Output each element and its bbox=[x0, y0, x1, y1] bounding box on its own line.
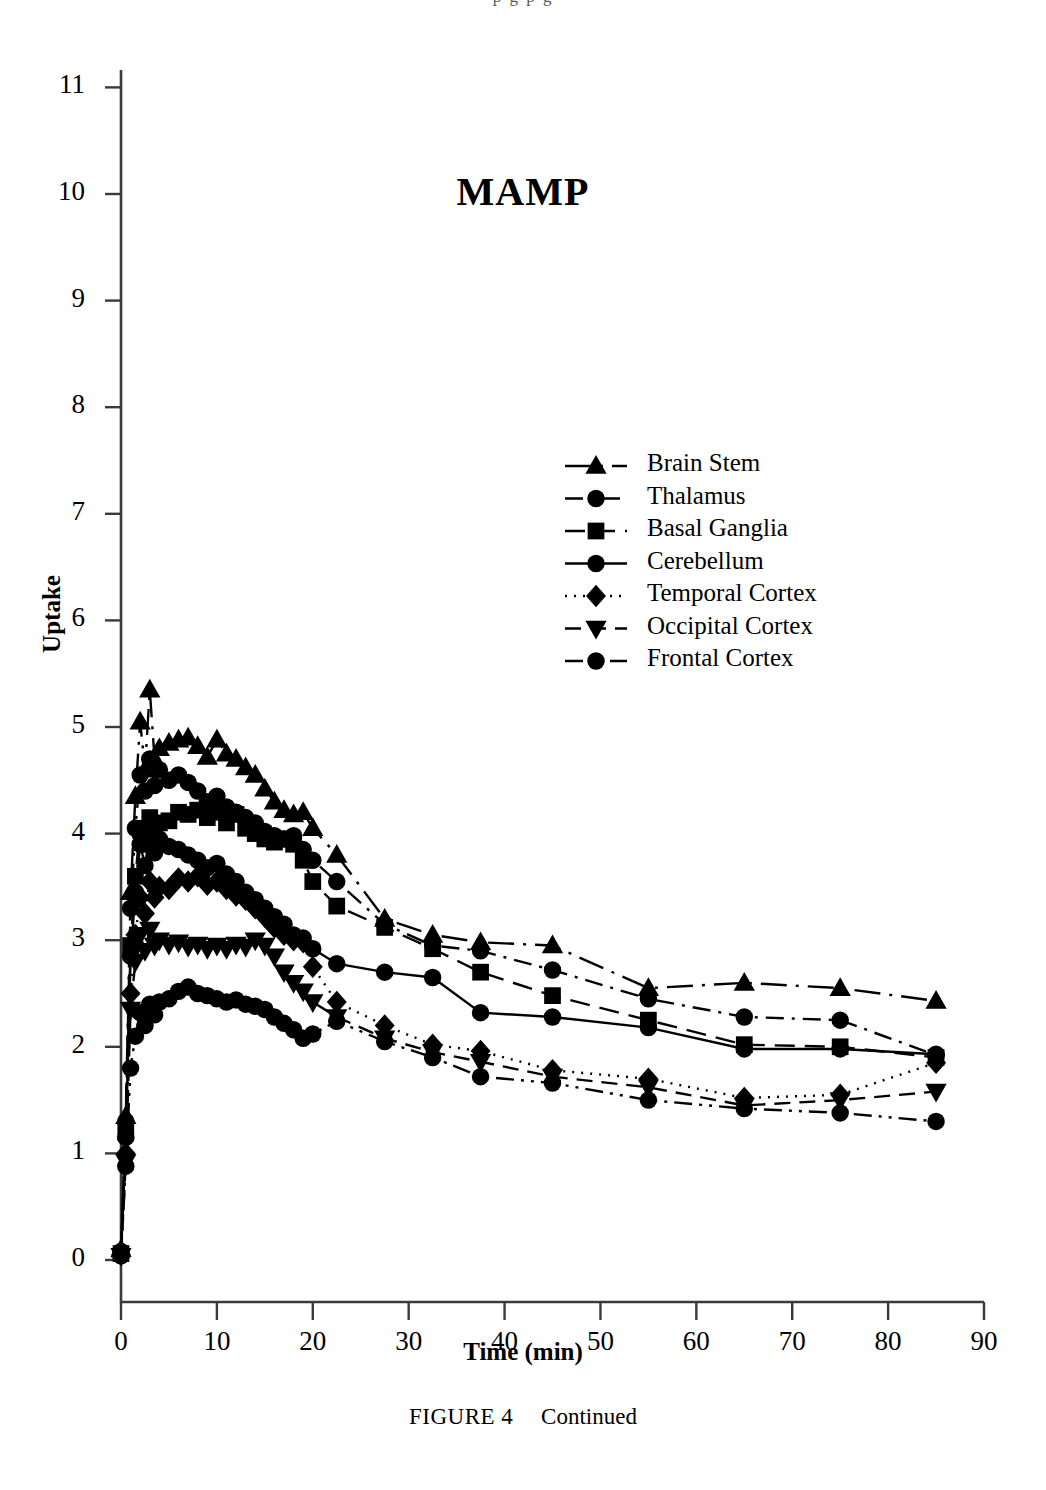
legend-entry bbox=[565, 621, 627, 640]
y-tick-label: 10 bbox=[25, 176, 85, 207]
x-tick-label: 0 bbox=[91, 1326, 151, 1357]
data-series-group bbox=[110, 679, 946, 1267]
legend-label: Basal Ganglia bbox=[647, 514, 788, 542]
figure-caption: FIGURE 4 Continued bbox=[0, 1404, 1046, 1430]
data-series bbox=[110, 679, 946, 1257]
legend-entry bbox=[565, 585, 627, 607]
x-tick-label: 10 bbox=[187, 1326, 247, 1357]
legend-entry bbox=[565, 652, 627, 669]
legend-entry bbox=[565, 523, 627, 540]
y-tick-label: 7 bbox=[25, 496, 85, 527]
x-tick-label: 30 bbox=[379, 1326, 439, 1357]
y-tick-label: 2 bbox=[25, 1029, 85, 1060]
x-tick-label: 50 bbox=[570, 1326, 630, 1357]
data-series bbox=[113, 802, 945, 1262]
legend-label: Cerebellum bbox=[647, 547, 764, 575]
axes-group bbox=[105, 70, 984, 1320]
legend-label: Occipital Cortex bbox=[647, 612, 813, 640]
data-series bbox=[110, 922, 946, 1267]
y-tick-label: 1 bbox=[25, 1135, 85, 1166]
chart-plot-area bbox=[0, 0, 1046, 1490]
x-tick-label: 90 bbox=[954, 1326, 1014, 1357]
x-tick-label: 20 bbox=[283, 1326, 343, 1357]
figure-caption-text: Continued bbox=[541, 1404, 637, 1429]
legend-label: Frontal Cortex bbox=[647, 644, 794, 672]
y-tick-label: 9 bbox=[25, 283, 85, 314]
y-tick-label: 6 bbox=[25, 602, 85, 633]
x-tick-label: 60 bbox=[666, 1326, 726, 1357]
y-tick-label: 3 bbox=[25, 922, 85, 953]
legend-label: Thalamus bbox=[647, 482, 746, 510]
legend-group bbox=[565, 455, 627, 670]
legend-entry bbox=[565, 490, 627, 507]
figure-caption-label: FIGURE 4 bbox=[409, 1404, 513, 1429]
legend-label: Temporal Cortex bbox=[647, 579, 817, 607]
x-tick-label: 40 bbox=[475, 1326, 535, 1357]
y-tick-label: 11 bbox=[25, 69, 85, 100]
chart-title: MAMP bbox=[0, 168, 1046, 215]
y-tick-label: 5 bbox=[25, 709, 85, 740]
x-tick-label: 80 bbox=[858, 1326, 918, 1357]
y-tick-label: 8 bbox=[25, 389, 85, 420]
figure-container: p g p g MAMP Uptake Time (min) 012345678… bbox=[0, 0, 1046, 1490]
legend-entry bbox=[565, 555, 627, 572]
y-tick-label: 0 bbox=[25, 1242, 85, 1273]
legend-label: Brain Stem bbox=[647, 449, 760, 477]
legend-entry bbox=[565, 455, 627, 474]
data-series bbox=[111, 865, 946, 1266]
x-tick-label: 70 bbox=[762, 1326, 822, 1357]
y-tick-label: 4 bbox=[25, 816, 85, 847]
data-series bbox=[112, 978, 945, 1264]
